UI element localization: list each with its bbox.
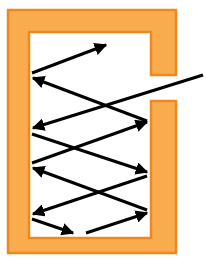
- light-trap-diagram: [0, 0, 206, 265]
- orange-frame: [8, 10, 176, 253]
- arrow-icon: [32, 122, 147, 163]
- arrow-icon: [32, 45, 106, 73]
- arrow-icon: [33, 168, 147, 210]
- arrow-icon: [86, 213, 147, 233]
- arrow-icon: [33, 176, 147, 214]
- arrow-icon: [32, 219, 73, 233]
- arrow-icon: [33, 75, 203, 128]
- arrows: [32, 45, 203, 233]
- arrow-icon: [33, 78, 147, 121]
- arrow-icon: [32, 134, 147, 172]
- frame: [8, 10, 176, 253]
